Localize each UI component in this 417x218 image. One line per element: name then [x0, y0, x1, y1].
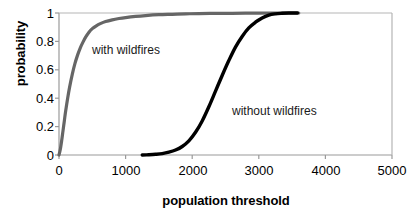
series-line-without-wildfires: [142, 13, 297, 155]
plot-area: [0, 0, 417, 218]
annotation-without-wildfires: without wildfires: [232, 105, 317, 118]
x-tick-marks: [59, 155, 392, 159]
series-line-with-wildfires: [59, 13, 299, 155]
axes: [59, 13, 392, 155]
chart-figure: probability 1 0.8 0.6 0.4 0.2 0 0 1000 2…: [0, 0, 417, 218]
annotation-with-wildfires: with wildfires: [92, 44, 160, 57]
